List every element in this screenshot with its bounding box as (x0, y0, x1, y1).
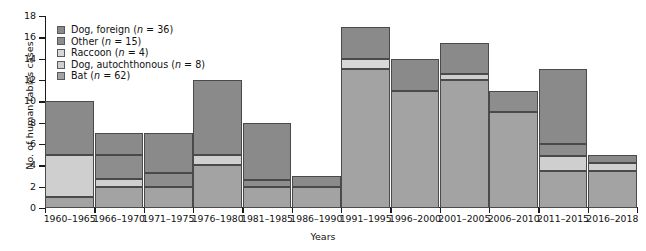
y-axis-tick-label: 6 (30, 139, 36, 149)
bar-segment-dog-foreign (391, 59, 440, 91)
x-axis-title: Years (0, 231, 646, 242)
y-axis-tick (39, 101, 45, 102)
bar-2001–2005 (440, 16, 489, 208)
y-axis-tick-label: 8 (30, 118, 36, 128)
chart-legend: Dog, foreign (n = 36)Other (n = 15)Racco… (57, 24, 205, 82)
legend-swatch-icon (57, 49, 65, 57)
y-axis-tick-label: 12 (24, 75, 36, 85)
legend-item-raccoon: Raccoon (n = 4) (57, 47, 205, 59)
y-axis-tick (39, 123, 45, 124)
bar-segment-dog-autochthonous (193, 155, 242, 166)
bar-2011–2015 (539, 16, 588, 208)
bar-segment-bat (144, 187, 193, 208)
bar-segment-dog-autochthonous (95, 179, 144, 186)
bar-segment-bat (539, 171, 588, 208)
y-axis-tick (39, 80, 45, 81)
bar-segment-other (243, 180, 292, 186)
legend-item-label: Other (n = 15) (71, 36, 141, 48)
bar-segment-bat (193, 165, 242, 208)
y-axis-tick (39, 16, 45, 17)
bar-segment-bat (243, 187, 292, 208)
legend-item-label: Raccoon (n = 4) (71, 47, 149, 59)
x-axis-tick-label: 2001–2005 (438, 213, 490, 224)
bar-2006–2010 (489, 16, 538, 208)
legend-item-other: Other (n = 15) (57, 36, 205, 48)
legend-swatch-icon (57, 61, 65, 69)
bar-segment-dog-foreign (539, 69, 588, 144)
bar-segment-other (144, 173, 193, 187)
y-axis-tick-label: 0 (30, 203, 36, 213)
bar-segment-dog-foreign (144, 133, 193, 172)
legend-item-dog-foreign: Dog, foreign (n = 36) (57, 24, 205, 36)
legend-item-label: Bat (n = 62) (71, 70, 130, 82)
bar-segment-dog-foreign (45, 101, 94, 154)
bar-segment-dog-autochthonous (440, 74, 489, 80)
legend-item-label: Dog, autochthonous (n = 8) (71, 59, 205, 71)
x-axis-tick-label: 2006–2010 (488, 213, 540, 224)
bar-segment-dog-foreign (292, 176, 341, 187)
bar-segment-bat (341, 69, 390, 208)
bar-segment-bat (95, 187, 144, 208)
y-axis-tick-label: 18 (24, 11, 36, 21)
bar-segment-dog-autochthonous (45, 155, 94, 198)
bar-segment-bat (292, 187, 341, 208)
x-axis-tick-label: 1986–1990 (290, 213, 342, 224)
bar-segment-bat (489, 112, 538, 208)
x-axis-tick-label: 1966–1970 (93, 213, 145, 224)
legend-swatch-icon (57, 37, 65, 45)
bar-segment-other (539, 144, 588, 156)
bar-segment-dog-foreign (588, 155, 637, 164)
x-axis-tick-label: 1971–1975 (142, 213, 194, 224)
bar-segment-dog-foreign (95, 133, 144, 154)
bar-segment-bat (440, 80, 489, 208)
x-axis-tick-label: 1981–1985 (241, 213, 293, 224)
bar-segment-dog-autochthonous (539, 156, 588, 171)
x-axis-tick-label: 2016–2018 (586, 213, 638, 224)
y-axis-tick-label: 4 (30, 161, 36, 171)
legend-swatch-icon (57, 72, 65, 80)
bar-segment-bat (588, 171, 637, 208)
bar-segment-dog-foreign (341, 27, 390, 59)
y-axis-tick-label: 2 (30, 182, 36, 192)
y-axis-tick (39, 165, 45, 166)
bar-segment-bat (45, 197, 94, 208)
bar-segment-dog-autochthonous (588, 163, 637, 170)
legend-item-label: Dog, foreign (n = 36) (71, 24, 173, 36)
stacked-bar-chart: No. of human rabies cases 02468101214161… (0, 0, 646, 251)
bar-segment-dog-foreign (193, 80, 242, 155)
y-axis-tick (39, 37, 45, 38)
bar-1996–2000 (391, 16, 440, 208)
legend-item-bat: Bat (n = 62) (57, 70, 205, 82)
bar-segment-dog-foreign (440, 43, 489, 74)
y-axis-tick (39, 187, 45, 188)
bar-1991–1995 (341, 16, 390, 208)
x-axis-tick-label: 1996–2000 (389, 213, 441, 224)
bar-segment-bat (391, 91, 440, 208)
legend-item-dog-autochthonous: Dog, autochthonous (n = 8) (57, 59, 205, 71)
y-axis-tick-label: 10 (24, 97, 36, 107)
legend-swatch-icon (57, 26, 65, 34)
x-axis-tick-labels: 1960–19651966–19701971–19751976–19801981… (45, 213, 638, 229)
y-axis-tick (39, 144, 45, 145)
x-axis-tick-label: 1991–1995 (340, 213, 392, 224)
y-axis-tick-label: 14 (24, 54, 36, 64)
bar-segment-raccoon (341, 59, 390, 70)
y-axis-tick (39, 59, 45, 60)
bar-segment-other (489, 91, 538, 112)
bar-segment-dog-foreign (243, 123, 292, 181)
y-axis-tick-label: 16 (24, 33, 36, 43)
bar-segment-other (95, 155, 144, 180)
x-axis-tick-label: 1976–1980 (192, 213, 244, 224)
x-axis-tick-label: 2011–2015 (537, 213, 589, 224)
bar-2016–2018 (588, 16, 637, 208)
x-axis-tick-label: 1960–1965 (44, 213, 96, 224)
bar-1986–1990 (292, 16, 341, 208)
bar-1981–1985 (243, 16, 292, 208)
